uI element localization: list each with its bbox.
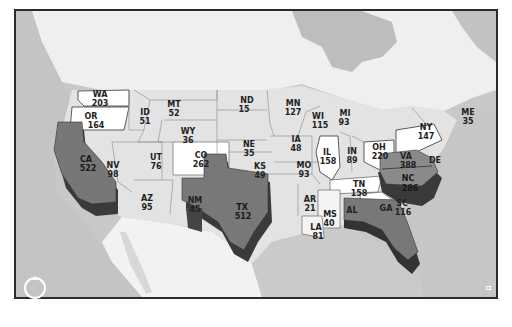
map-canvas[interactable]: WA 203 OR 164 CA 522 NV 98 ID 51 MT 52 W… <box>16 11 496 297</box>
svg-text:116: 116 <box>395 208 412 217</box>
svg-text:93: 93 <box>298 170 309 179</box>
svg-text:115: 115 <box>312 121 329 130</box>
svg-text:ID: ID <box>140 108 150 117</box>
svg-text:MT: MT <box>167 100 181 109</box>
svg-text:TX: TX <box>236 203 248 212</box>
svg-text:51: 51 <box>139 117 151 126</box>
svg-text:512: 512 <box>235 212 252 221</box>
map-viewport[interactable]: WA 203 OR 164 CA 522 NV 98 ID 51 MT 52 W… <box>14 9 498 299</box>
svg-text:ND: ND <box>240 96 254 105</box>
svg-text:40: 40 <box>323 219 335 228</box>
svg-text:MN: MN <box>286 99 301 108</box>
svg-text:81: 81 <box>312 232 324 241</box>
svg-text:MI: MI <box>340 109 351 118</box>
svg-text:SC: SC <box>396 199 408 208</box>
svg-text:49: 49 <box>254 171 266 180</box>
svg-text:NY: NY <box>420 123 433 132</box>
svg-text:158: 158 <box>320 157 337 166</box>
svg-text:35: 35 <box>243 149 255 158</box>
svg-text:36: 36 <box>182 136 194 145</box>
svg-text:388: 388 <box>400 161 417 170</box>
svg-text:KS: KS <box>254 162 266 171</box>
svg-text:21: 21 <box>304 204 316 213</box>
svg-text:NV: NV <box>107 161 121 170</box>
svg-text:220: 220 <box>372 152 389 161</box>
svg-text:CA: CA <box>80 155 93 164</box>
svg-text:OR: OR <box>85 112 98 121</box>
svg-text:AR: AR <box>304 195 316 204</box>
svg-text:98: 98 <box>107 170 119 179</box>
svg-text:93: 93 <box>338 118 349 127</box>
svg-text:IN: IN <box>347 147 357 156</box>
svg-text:35: 35 <box>462 117 474 126</box>
svg-text:15: 15 <box>238 105 250 114</box>
svg-text:AL: AL <box>346 206 357 215</box>
svg-text:CO: CO <box>195 151 208 160</box>
svg-text:WA: WA <box>93 90 108 99</box>
svg-text:ME: ME <box>461 108 474 117</box>
svg-text:127: 127 <box>285 108 302 117</box>
svg-text:76: 76 <box>150 162 162 171</box>
svg-text:203: 203 <box>92 99 109 108</box>
svg-text:AZ: AZ <box>141 194 153 203</box>
svg-text:89: 89 <box>346 156 358 165</box>
svg-text:OH: OH <box>372 143 386 152</box>
svg-text:45: 45 <box>189 205 201 214</box>
svg-text:286: 286 <box>402 184 419 193</box>
svg-text:48: 48 <box>290 144 302 153</box>
svg-text:WI: WI <box>312 112 324 121</box>
svg-text:NE: NE <box>243 140 255 149</box>
svg-text:522: 522 <box>80 164 97 173</box>
svg-text:NC: NC <box>402 174 415 183</box>
svg-text:95: 95 <box>141 203 153 212</box>
svg-text:GA: GA <box>380 204 394 213</box>
svg-text:164: 164 <box>88 121 105 130</box>
svg-text:IA: IA <box>291 135 301 144</box>
svg-text:158: 158 <box>351 189 368 198</box>
compass-icon[interactable] <box>24 277 46 299</box>
svg-text:DE: DE <box>429 156 441 165</box>
svg-text:52: 52 <box>168 109 179 118</box>
svg-text:LA: LA <box>310 223 322 232</box>
svg-text:IL: IL <box>323 148 331 157</box>
svg-text:MO: MO <box>297 161 312 170</box>
svg-text:VA: VA <box>400 152 413 161</box>
attribution-icon[interactable] <box>486 286 491 290</box>
svg-text:WY: WY <box>181 127 196 136</box>
svg-text:147: 147 <box>418 132 435 141</box>
svg-text:UT: UT <box>150 153 162 162</box>
svg-text:TN: TN <box>353 180 365 189</box>
svg-text:MS: MS <box>323 210 337 219</box>
svg-text:NM: NM <box>188 196 203 205</box>
svg-text:262: 262 <box>193 160 210 169</box>
